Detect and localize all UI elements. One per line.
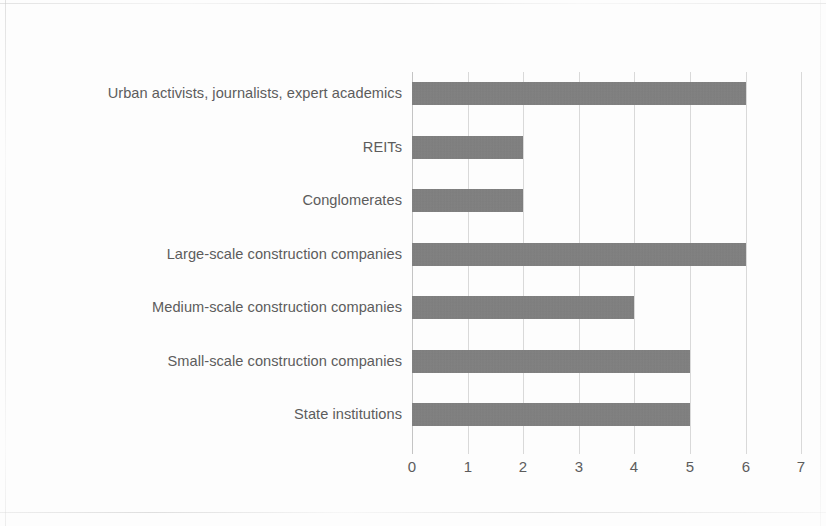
bar	[412, 82, 746, 105]
category-label: REITs	[2, 139, 402, 155]
bar	[412, 136, 523, 159]
category-label: Small-scale construction companies	[2, 353, 402, 369]
bar	[412, 403, 690, 426]
x-tick-label: 0	[392, 458, 432, 475]
bar	[412, 350, 690, 373]
category-label: Urban activists, journalists, expert aca…	[2, 85, 402, 101]
chart-page: Urban activists, journalists, expert aca…	[0, 0, 826, 526]
bar	[412, 296, 634, 319]
x-tick-label: 1	[448, 458, 488, 475]
category-label: State institutions	[2, 406, 402, 422]
x-tick-label: 4	[614, 458, 654, 475]
category-label: Conglomerates	[2, 192, 402, 208]
category-label: Large-scale construction companies	[2, 246, 402, 262]
x-tick-label: 2	[503, 458, 543, 475]
x-tick-label: 5	[670, 458, 710, 475]
bar	[412, 243, 746, 266]
category-label: Medium-scale construction companies	[2, 299, 402, 315]
bar	[412, 189, 523, 212]
horizontal-bar-chart: Urban activists, journalists, expert aca…	[0, 0, 826, 526]
x-tick-label: 7	[781, 458, 821, 475]
gridline-7	[801, 72, 802, 454]
x-tick-label: 6	[726, 458, 766, 475]
gridline-6	[746, 72, 747, 454]
x-tick-label: 3	[559, 458, 599, 475]
